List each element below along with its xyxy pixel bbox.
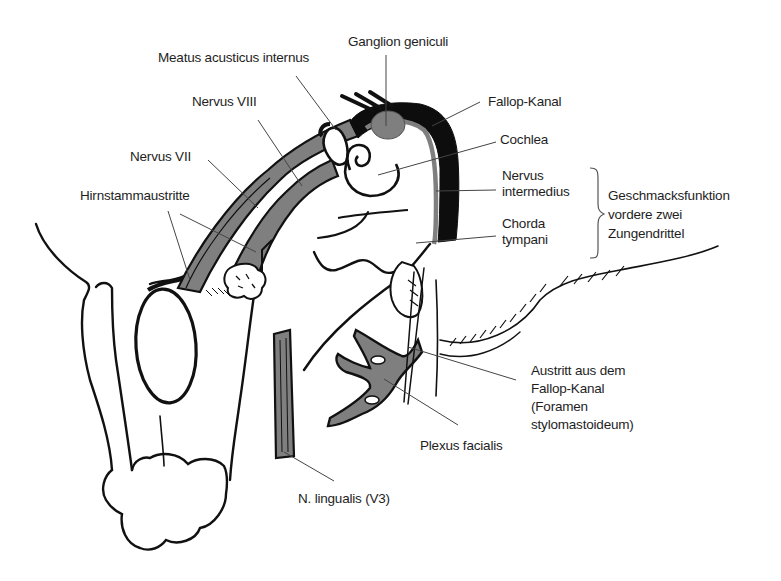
label-line: Geschmacksfunktion (608, 186, 730, 205)
label-plexus-facialis: Plexus facialis (420, 438, 503, 454)
label-geschmacksfunktion: Geschmacksfunktion vordere zwei Zungendr… (608, 186, 730, 243)
label-cochlea: Cochlea (500, 132, 548, 148)
label-chorda-tympani: Chorda tympani (502, 216, 548, 248)
label-line: stylomastoideum) (531, 416, 634, 434)
label-line: Zungendrittel (608, 224, 730, 243)
label-ganglion-geniculi: Ganglion geniculi (348, 34, 448, 50)
label-line: (Foramen (531, 398, 634, 416)
label-nervus-viii: Nervus VIII (192, 94, 257, 110)
label-line: Nervus (502, 168, 570, 184)
facial-nerve-diagram: Ganglion geniculi Meatus acusticus inter… (0, 0, 781, 581)
brace (590, 168, 604, 258)
label-line: intermedius (502, 184, 570, 200)
label-meatus-acusticus-internus: Meatus acusticus internus (158, 50, 309, 66)
label-line: Chorda (502, 216, 548, 232)
oliva-oval (132, 287, 200, 405)
ganglion-geniculi (371, 111, 405, 139)
cochlea (345, 145, 398, 196)
label-hirnstammaustritte: Hirnstammaustritte (80, 188, 190, 204)
n-lingualis-bar (274, 330, 294, 458)
label-line: vordere zwei (608, 205, 730, 224)
label-nervus-vii: Nervus VII (130, 149, 191, 165)
anatomy-drawing (0, 0, 781, 581)
label-line: tympani (502, 232, 548, 248)
label-line: Fallop-Kanal (531, 380, 634, 398)
label-line: Austritt aus dem (531, 362, 634, 380)
label-fallop-kanal: Fallop-Kanal (488, 94, 561, 110)
label-nervus-intermedius: Nervus intermedius (502, 168, 570, 200)
label-austritt-fallop-kanal: Austritt aus dem Fallop-Kanal (Foramen s… (531, 362, 634, 434)
label-n-lingualis: N. lingualis (V3) (298, 491, 390, 507)
